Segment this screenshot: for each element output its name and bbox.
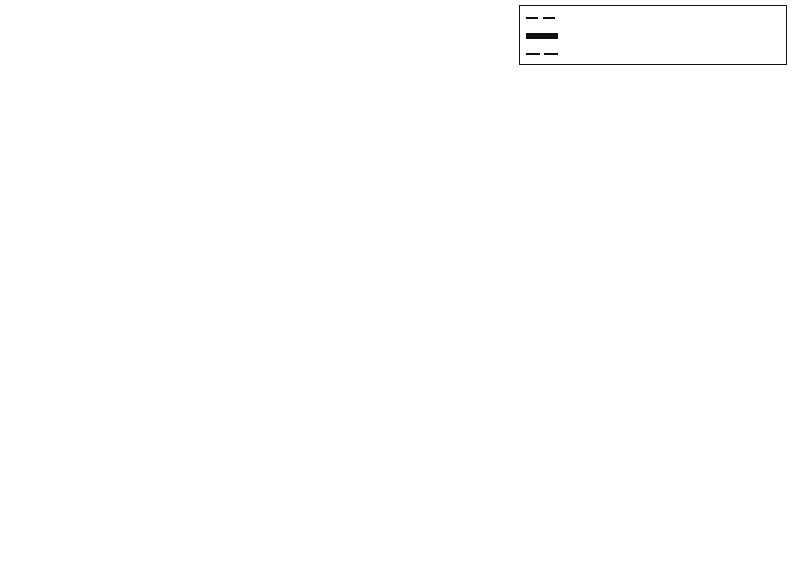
chart-figure xyxy=(0,0,794,583)
dashed-line-key-icon xyxy=(525,12,559,24)
plot-area xyxy=(150,40,787,302)
y-axis-title xyxy=(39,0,85,249)
legend-item-mass-allocation xyxy=(525,9,780,27)
